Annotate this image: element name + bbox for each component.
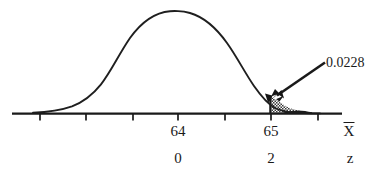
tick-label-z-2: 2	[267, 151, 275, 166]
normal-curve	[33, 11, 320, 113]
annotation-arrow	[265, 63, 325, 103]
xbar-axis-letter: X	[344, 124, 355, 139]
z-axis-label: z	[347, 151, 354, 166]
tail-area-annotation: 0.0228	[326, 56, 365, 70]
tick-label-xbar-64: 64	[171, 124, 186, 139]
tick-label-z-0: 0	[174, 151, 182, 166]
chart-canvas	[0, 0, 381, 176]
tick-label-xbar-65: 65	[264, 124, 279, 139]
normal-distribution-figure: 0.0228 64 65 X 0 2 z	[0, 0, 381, 176]
xbar-axis-label: X	[344, 122, 355, 139]
